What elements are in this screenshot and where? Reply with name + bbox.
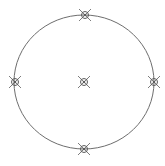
crosshair-marker-icon: [9, 76, 21, 88]
marker-group: [9, 9, 160, 155]
marker-center[interactable]: [78, 76, 90, 88]
marker-left[interactable]: [9, 76, 21, 88]
diagram-canvas: [0, 0, 165, 166]
crosshair-marker-icon: [78, 76, 90, 88]
